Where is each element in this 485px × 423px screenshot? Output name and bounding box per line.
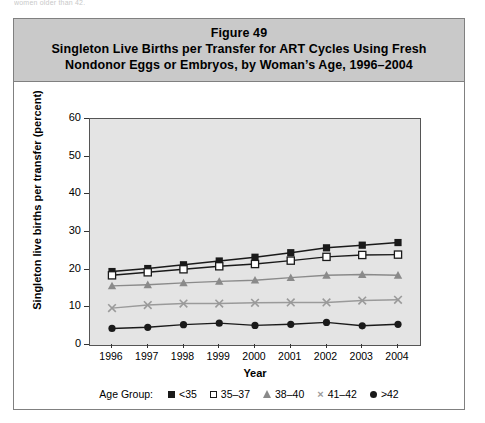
x-tick-label: 1997 bbox=[127, 350, 167, 362]
x-tick-label: 2002 bbox=[306, 350, 346, 362]
x-tick-label: 2003 bbox=[341, 350, 381, 362]
x-tick-label: 2001 bbox=[270, 350, 310, 362]
x-tick-mark bbox=[290, 344, 291, 348]
series-42 bbox=[108, 319, 401, 332]
x-tick-label: 1996 bbox=[91, 350, 131, 362]
legend-item-label: <35 bbox=[179, 388, 197, 400]
figure-container: Figure 49 Singleton Live Births per Tran… bbox=[13, 18, 465, 410]
x-tick-mark bbox=[147, 344, 148, 348]
legend-item-label: 38–40 bbox=[275, 388, 304, 400]
legend-item-35[interactable]: <35 bbox=[168, 388, 197, 400]
legend-item-label: 35–37 bbox=[221, 388, 250, 400]
series-4142 bbox=[108, 296, 402, 312]
cross-x-icon: × bbox=[317, 390, 323, 398]
chart-region: Singleton live births per transfer (perc… bbox=[14, 82, 464, 415]
y-tick-label: 50 bbox=[59, 149, 81, 161]
cut-off-top-text: women older than 42. bbox=[14, 0, 85, 7]
y-tick-label: 40 bbox=[59, 186, 81, 198]
series-layer bbox=[90, 119, 420, 345]
legend-item-3840[interactable]: 38–40 bbox=[263, 388, 304, 400]
x-tick-mark bbox=[254, 344, 255, 348]
filled-circle-icon bbox=[370, 391, 377, 398]
y-tick-label: 60 bbox=[59, 111, 81, 123]
x-tick-label: 1998 bbox=[163, 350, 203, 362]
figure-title-band: Figure 49 Singleton Live Births per Tran… bbox=[14, 19, 464, 82]
x-tick-mark bbox=[397, 344, 398, 348]
plot-area bbox=[89, 118, 421, 346]
legend-item-label: 41–42 bbox=[328, 388, 357, 400]
x-tick-label: 2000 bbox=[234, 350, 274, 362]
legend-item-4142[interactable]: ×41–42 bbox=[317, 388, 357, 400]
series-35 bbox=[108, 239, 401, 275]
x-tick-mark bbox=[218, 344, 219, 348]
legend-item-42[interactable]: >42 bbox=[370, 388, 399, 400]
legend-item-3537[interactable]: 35–37 bbox=[210, 388, 250, 400]
legend-item-label: >42 bbox=[381, 388, 399, 400]
y-tick-label: 0 bbox=[59, 337, 81, 349]
x-tick-mark bbox=[111, 344, 112, 348]
figure-number: Figure 49 bbox=[24, 25, 454, 41]
x-axis-label: Year bbox=[89, 367, 421, 379]
x-tick-mark bbox=[361, 344, 362, 348]
filled-square-icon bbox=[168, 391, 175, 398]
x-tick-mark bbox=[326, 344, 327, 348]
x-tick-label: 2004 bbox=[377, 350, 417, 362]
chart-legend: Age Group: <3535–3738–40×41–42>42 bbox=[54, 388, 444, 400]
figure-title-line-1: Singleton Live Births per Transfer for A… bbox=[24, 41, 454, 57]
x-tick-label: 1999 bbox=[198, 350, 238, 362]
y-tick-label: 10 bbox=[59, 299, 81, 311]
figure-title-line-2: Nondonor Eggs or Embryos, by Woman’s Age… bbox=[24, 57, 454, 73]
y-axis-label: Singleton live births per transfer (perc… bbox=[31, 85, 43, 315]
open-square-icon bbox=[210, 391, 217, 398]
y-tick-label: 30 bbox=[59, 224, 81, 236]
y-tick-label: 20 bbox=[59, 262, 81, 274]
filled-triangle-icon bbox=[263, 390, 271, 398]
legend-title: Age Group: bbox=[99, 388, 153, 400]
x-tick-mark bbox=[183, 344, 184, 348]
